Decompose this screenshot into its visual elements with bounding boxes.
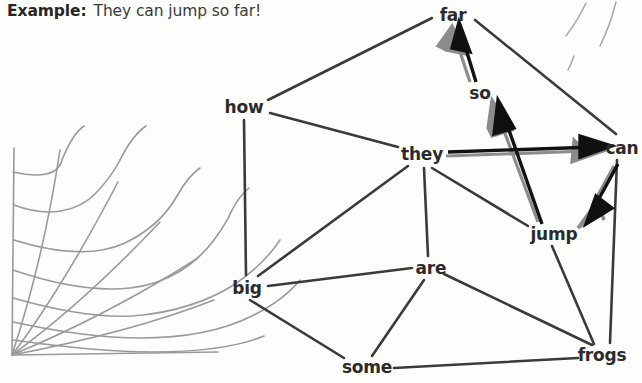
graph-node-are[interactable]: are [414, 260, 449, 277]
worksheet-page: Example:They can jump so far! [0, 0, 642, 383]
graph-node-how[interactable]: how [223, 99, 266, 116]
graph-node-big[interactable]: big [230, 280, 264, 297]
graph-node-so[interactable]: so [467, 85, 492, 102]
graph-node-far[interactable]: far [438, 7, 469, 24]
graph-node-can[interactable]: can [603, 140, 640, 157]
arrow-jump-to-so [504, 116, 542, 224]
graph-node-frogs[interactable]: frogs [576, 347, 629, 364]
graph-node-they[interactable]: they [399, 146, 445, 163]
graph-node-some[interactable]: some [340, 359, 394, 376]
graph-node-jump[interactable]: jump [528, 226, 579, 243]
graph-arrow-layer [0, 0, 642, 383]
